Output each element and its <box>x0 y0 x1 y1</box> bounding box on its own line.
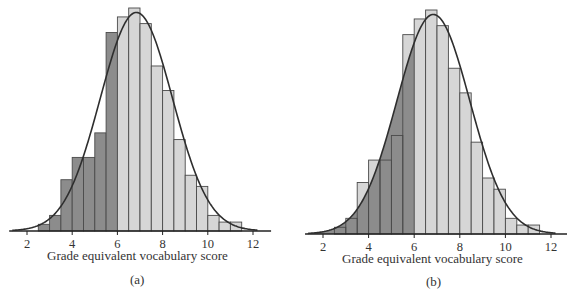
histogram-b-plot: 24681012 <box>283 0 567 294</box>
x-tick-label: 2 <box>24 237 30 251</box>
histogram-bar <box>494 189 505 234</box>
histogram-bar <box>129 8 140 231</box>
histogram-bar <box>151 66 162 231</box>
x-tick-label: 12 <box>545 240 558 254</box>
histogram-bar <box>163 91 174 231</box>
histogram-bar <box>426 10 437 234</box>
x-axis-label-a: Grade equivalent vocabulary score <box>47 248 228 264</box>
histogram-bar <box>483 178 494 234</box>
histogram-bar <box>208 215 219 231</box>
x-tick-label: 2 <box>320 240 326 254</box>
panel-label-a: (a) <box>130 272 144 288</box>
histogram-bar <box>448 68 459 234</box>
x-axis-label-b: Grade equivalent vocabulary score <box>342 251 523 267</box>
histogram-bar <box>197 186 208 231</box>
histogram-bar <box>140 24 151 231</box>
histogram-bar <box>185 175 196 231</box>
histogram-bar <box>414 19 425 234</box>
histogram-bar <box>437 26 448 234</box>
histogram-bar <box>117 17 128 231</box>
histogram-bar <box>174 140 185 231</box>
histogram-bars <box>38 8 241 231</box>
histogram-panel-a: 24681012 Grade equivalent vocabulary sco… <box>0 0 283 294</box>
histogram-bar <box>505 218 516 234</box>
histogram-bar <box>72 157 83 231</box>
histogram-bar <box>95 133 106 231</box>
panel-label-b: (b) <box>426 274 441 290</box>
histogram-bar <box>84 157 95 231</box>
x-tick-label: 12 <box>247 237 260 251</box>
histogram-bar <box>106 33 117 231</box>
histogram-bar <box>471 142 482 234</box>
histogram-bar <box>460 93 471 234</box>
histogram-bar <box>61 180 72 231</box>
histogram-panel-b: 24681012 Grade equivalent vocabulary sco… <box>283 0 567 294</box>
